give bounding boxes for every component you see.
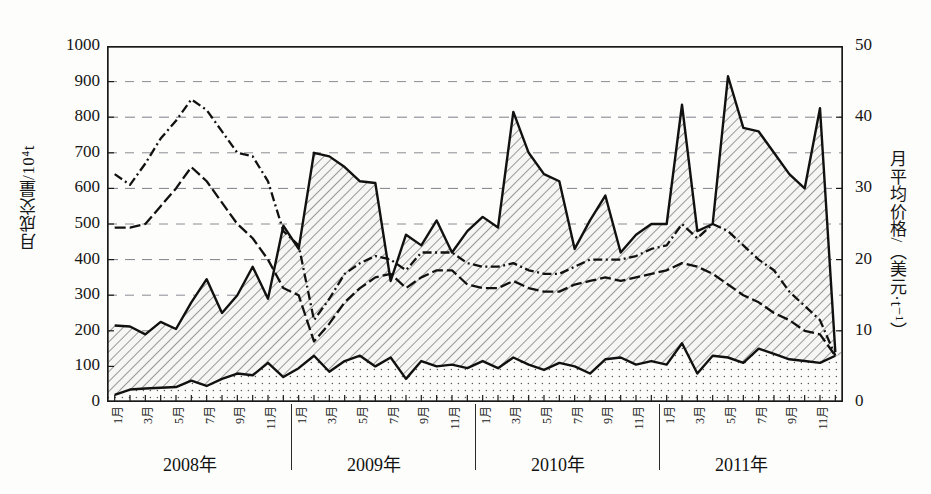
x-axis-month-label: 5月 (169, 406, 187, 424)
y-axis-right-tick-label: 30 (855, 177, 895, 197)
y-axis-left-tick-label: 300 (44, 284, 100, 304)
x-axis-month-label: 5月 (353, 406, 371, 424)
y-axis-right-tick-label: 20 (855, 249, 895, 269)
x-axis-month-label: 9月 (230, 406, 248, 424)
y-axis-right-tick-label: 0 (855, 391, 895, 411)
y-axis-left-tick-label: 700 (44, 142, 100, 162)
y-axis-left-tick-label: 1000 (44, 35, 100, 55)
x-axis-month-label: 11月 (813, 406, 831, 430)
x-axis-month-label: 3月 (506, 406, 524, 424)
chart-figure: 月成交量/10⁴t 月平均价格/（美元·t⁻¹） 010020030040050… (0, 0, 931, 494)
y-axis-left-tick-label: 100 (44, 355, 100, 375)
y-axis-left-tick-label: 600 (44, 177, 100, 197)
y-axis-left-tick-label: 200 (44, 320, 100, 340)
y-axis-left-tick-label: 500 (44, 213, 100, 233)
year-separator (659, 404, 660, 470)
x-axis-month-label: 5月 (537, 406, 555, 424)
x-axis-month-label: 7月 (200, 406, 218, 424)
chart-svg (107, 46, 843, 402)
x-axis-month-label: 1月 (292, 406, 310, 424)
x-axis-year-label: 2009年 (347, 450, 401, 476)
year-separator (291, 404, 292, 470)
y-axis-left-tick-label: 900 (44, 71, 100, 91)
y-axis-left-tick-label: 400 (44, 249, 100, 269)
x-axis-year-label: 2010年 (531, 450, 585, 476)
year-separator (475, 404, 476, 470)
x-axis-month-label: 7月 (568, 406, 586, 424)
x-axis-month-label: 11月 (629, 406, 647, 430)
x-axis-month-label: 5月 (721, 406, 739, 424)
x-axis-month-label: 3月 (322, 406, 340, 424)
x-axis-month-label: 9月 (782, 406, 800, 424)
y-axis-right-tick-label: 50 (855, 35, 895, 55)
x-axis-year-label: 2011年 (715, 450, 768, 476)
x-axis-month-label: 9月 (598, 406, 616, 424)
x-axis-year-label: 2008年 (163, 450, 217, 476)
x-axis-month-label: 7月 (752, 406, 770, 424)
y-axis-left-tick-label: 800 (44, 106, 100, 126)
x-axis-month-label: 11月 (261, 406, 279, 430)
x-axis-month-label: 7月 (384, 406, 402, 424)
x-axis-month-label: 3月 (138, 406, 156, 424)
x-axis-month-label: 1月 (108, 406, 126, 424)
plot-area (107, 46, 843, 402)
y-axis-left-title: 月成交量/10⁴t (16, 145, 41, 250)
x-axis-month-label: 11月 (445, 406, 463, 430)
x-axis-month-label: 1月 (660, 406, 678, 424)
x-axis-month-label: 1月 (476, 406, 494, 424)
x-axis-month-label: 3月 (690, 406, 708, 424)
y-axis-left-tick-label: 0 (44, 391, 100, 411)
y-axis-right-tick-label: 10 (855, 320, 895, 340)
x-axis-month-label: 9月 (414, 406, 432, 424)
y-axis-right-tick-label: 40 (855, 106, 895, 126)
